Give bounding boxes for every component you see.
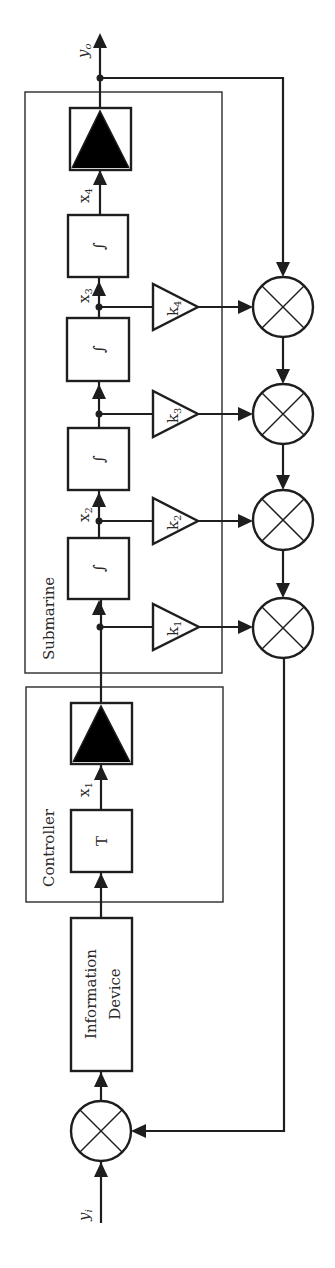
arrow-up-icon xyxy=(94,765,108,780)
svg-text:Device: Device xyxy=(106,968,124,1020)
x2-signal-label: x2 xyxy=(75,507,94,522)
arrow-down-icon xyxy=(276,262,290,277)
arrow-down-icon xyxy=(276,369,290,384)
svg-text:Information: Information xyxy=(82,949,100,1039)
arrow-up-icon xyxy=(92,384,106,399)
x4-signal-label: x4 xyxy=(75,188,94,203)
gain-k1-branch: k1 xyxy=(100,604,253,650)
x1-signal-label: x1 xyxy=(75,782,94,797)
integrator-4-block: ∫ xyxy=(68,215,128,277)
svg-text:∫: ∫ xyxy=(90,455,108,463)
svg-text:∫: ∫ xyxy=(90,242,108,250)
arrow-up-icon xyxy=(94,1162,108,1177)
integrator-2-block: ∫ xyxy=(68,428,129,490)
controller-group-label: Controller xyxy=(40,808,58,887)
return-feedback-line xyxy=(138,658,284,1131)
arrow-left-icon xyxy=(131,1124,146,1138)
svg-text:∫: ∫ xyxy=(90,345,108,353)
arrow-up-icon xyxy=(92,281,106,296)
information-device-block: Information Device xyxy=(71,918,132,1071)
input-summing-junction xyxy=(71,1101,131,1161)
arrow-up-icon xyxy=(92,492,106,507)
arrow-down-icon xyxy=(276,583,290,598)
output-signal-label: yo xyxy=(74,43,93,59)
summing-junction-2 xyxy=(253,490,313,550)
arrow-up-icon xyxy=(93,170,107,185)
arrow-up-icon xyxy=(94,1072,108,1087)
x3-signal-label: x3 xyxy=(75,288,94,303)
block-diagram: Submarine Controller ∫ ∫ ∫ ∫ xyxy=(0,0,335,1268)
integrator-3-block: ∫ xyxy=(67,318,129,381)
summing-junction-4 xyxy=(253,277,313,337)
output-arrow-icon xyxy=(93,33,107,48)
summing-junction-3 xyxy=(253,384,313,444)
output-amplifier-block xyxy=(70,108,131,170)
input-signal-label: yi xyxy=(75,1209,94,1222)
integrator-1-block: ∫ xyxy=(68,538,129,599)
svg-text:∫: ∫ xyxy=(90,564,108,572)
arrow-down-icon xyxy=(276,475,290,490)
controller-T-block: T xyxy=(71,810,132,872)
arrow-up-icon xyxy=(94,873,108,888)
submarine-group-label: Submarine xyxy=(40,577,58,660)
arrow-up-icon xyxy=(92,600,106,615)
svg-text:T: T xyxy=(93,836,111,846)
summing-junction-1 xyxy=(253,598,313,658)
controller-amplifier-block xyxy=(71,703,132,764)
